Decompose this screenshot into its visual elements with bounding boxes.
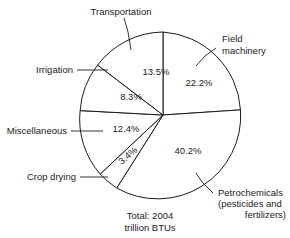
category-label-petrochemicals-line2: (pesticides and	[218, 198, 282, 209]
category-label-petrochemicals-line3: fertilizers)	[245, 209, 286, 220]
category-label-field-machinery-line1: Field	[222, 33, 243, 44]
pie-value-label-transportation: 13.5%	[143, 66, 170, 77]
pie-value-label-field-machinery: 22.2%	[186, 77, 213, 88]
pie-chart-svg: 22.2% 40.2% 3.4% 12.4% 8.3% 13.5% Transp…	[0, 0, 290, 238]
category-label-field-machinery: Field machinery	[222, 33, 266, 56]
category-label-irrigation: Irrigation	[36, 64, 73, 75]
category-label-petrochemicals: Petrochemicals (pesticides and fertilize…	[218, 187, 286, 220]
category-label-field-machinery-line2: machinery	[222, 45, 266, 56]
chart-total-line2: trillion BTUs	[124, 222, 175, 233]
category-label-miscellaneous: Miscellaneous	[7, 125, 67, 136]
category-label-transportation: Transportation	[91, 6, 152, 17]
category-label-crop-drying: Crop drying	[27, 171, 76, 182]
pie-slices	[80, 32, 241, 199]
pie-value-label-miscellaneous: 12.4%	[113, 123, 140, 134]
pie-value-label-petrochemicals: 40.2%	[175, 145, 202, 156]
chart-total-line1: Total: 2004	[127, 210, 173, 221]
pie-chart: 22.2% 40.2% 3.4% 12.4% 8.3% 13.5% Transp…	[0, 0, 290, 238]
chart-total-caption: Total: 2004 trillion BTUs	[124, 210, 175, 233]
pie-value-label-irrigation: 8.3%	[120, 91, 142, 102]
category-label-petrochemicals-line1: Petrochemicals	[218, 187, 283, 198]
